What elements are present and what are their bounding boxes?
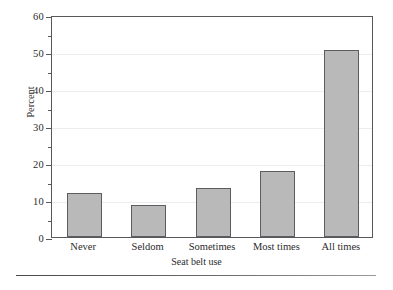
y-tick-label: 30	[0, 123, 44, 134]
y-tick-label: 40	[0, 86, 44, 97]
y-tick-label: 10	[0, 197, 44, 208]
y-tick-label: 50	[0, 49, 44, 60]
bottom-divider	[16, 275, 376, 276]
bar	[260, 171, 295, 237]
bar	[196, 188, 231, 237]
y-tick-label: 20	[0, 160, 44, 171]
plot-area: 0102030405060	[51, 16, 373, 238]
y-tick-label: 60	[0, 12, 44, 23]
figure: 0102030405060 Percent NeverSeldomSometim…	[0, 0, 393, 290]
x-tick-label: All times	[291, 241, 391, 252]
bar	[67, 193, 102, 237]
bar	[131, 205, 166, 237]
y-tick-major	[46, 239, 52, 240]
bar	[324, 50, 359, 237]
y-axis-title: Percent	[25, 67, 36, 137]
bar-series	[52, 17, 372, 237]
x-axis-title: Seat belt use	[0, 256, 393, 267]
